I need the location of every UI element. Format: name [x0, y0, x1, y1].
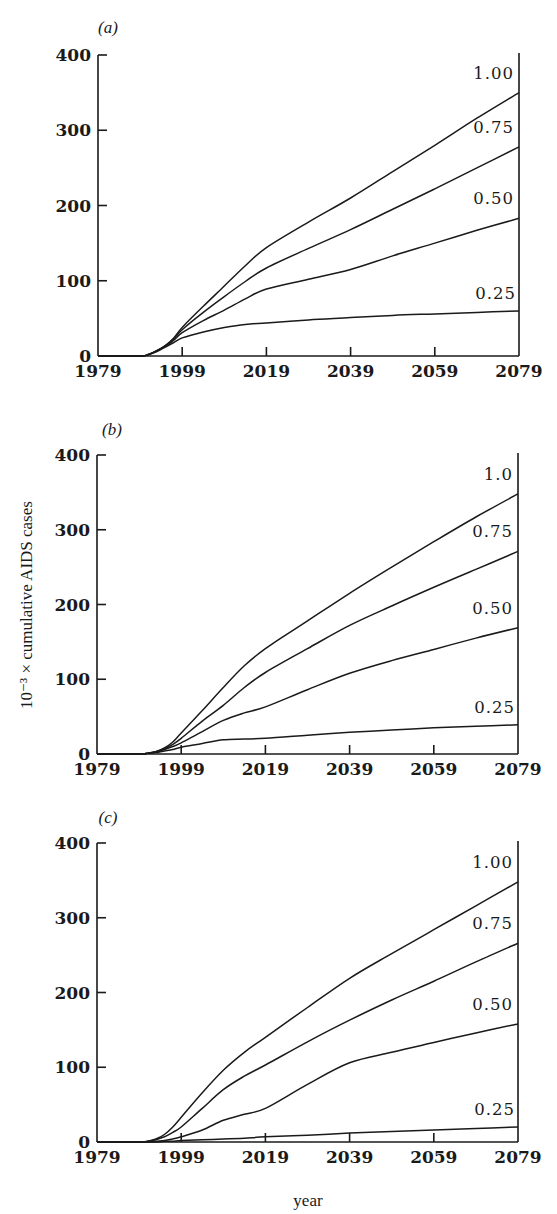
x-tick-label: 2039	[326, 1147, 373, 1167]
series-label: 1.00	[472, 853, 513, 872]
figure: 10⁻³ × cumulative AIDS cases year (a)010…	[0, 0, 557, 1214]
y-tick-label: 400	[55, 445, 91, 465]
series-line-1_00	[98, 93, 519, 357]
y-tick-label: 200	[56, 196, 92, 216]
x-tick-label: 2019	[243, 361, 290, 381]
y-tick-label: 300	[55, 908, 91, 928]
x-axis-title: year	[293, 1191, 323, 1210]
series-line-1_0	[97, 494, 518, 754]
series-line-0_75	[97, 551, 518, 754]
y-axis-title: 10⁻³ × cumulative AIDS cases	[17, 501, 36, 709]
y-tick-label: 100	[56, 271, 92, 291]
series-line-0_75	[98, 147, 519, 356]
series-line-0_75	[97, 943, 518, 1142]
x-tick-label: 1979	[73, 1147, 120, 1167]
series-label: 0.50	[472, 599, 513, 618]
series-label: 0.75	[472, 522, 513, 541]
y-tick-label: 200	[55, 983, 91, 1003]
series-label: 0.50	[472, 995, 513, 1014]
x-tick-label: 1999	[158, 759, 205, 779]
x-tick-label: 1979	[73, 759, 120, 779]
x-tick-label: 2059	[410, 759, 457, 779]
x-tick-label: 2039	[326, 759, 373, 779]
x-tick-label: 1979	[74, 361, 121, 381]
series-line-1_00	[97, 882, 518, 1142]
x-tick-label: 2059	[410, 1147, 457, 1167]
series-label: 0.75	[472, 914, 513, 933]
x-tick-label: 2039	[327, 361, 374, 381]
x-tick-label: 1999	[158, 1147, 205, 1167]
y-tick-label: 400	[56, 45, 92, 65]
x-tick-label: 2079	[494, 1147, 541, 1167]
x-tick-label: 2059	[411, 361, 458, 381]
series-line-0_25	[98, 311, 519, 356]
panel-label: (a)	[98, 18, 118, 37]
series-label: 0.50	[473, 189, 514, 208]
series-label: 1.00	[473, 64, 514, 83]
series-label: 1.0	[484, 465, 513, 484]
x-tick-label: 2079	[494, 759, 541, 779]
x-tick-label: 2019	[242, 1147, 289, 1167]
panel-label: (b)	[102, 420, 122, 439]
series-line-0_25	[97, 1127, 518, 1142]
series-line-0_50	[98, 218, 519, 356]
y-tick-label: 300	[56, 120, 92, 140]
series-label: 0.25	[474, 1100, 515, 1119]
y-tick-label: 300	[55, 520, 91, 540]
x-tick-label: 2079	[495, 361, 542, 381]
y-tick-label: 200	[55, 595, 91, 615]
y-tick-label: 100	[55, 669, 91, 689]
x-tick-label: 2019	[242, 759, 289, 779]
y-tick-label: 400	[55, 833, 91, 853]
y-tick-label: 100	[55, 1057, 91, 1077]
series-label: 0.25	[474, 698, 515, 717]
panel-label: (c)	[99, 808, 118, 827]
series-label: 0.75	[473, 118, 514, 137]
series-label: 0.25	[475, 284, 516, 303]
x-tick-label: 1999	[159, 361, 206, 381]
